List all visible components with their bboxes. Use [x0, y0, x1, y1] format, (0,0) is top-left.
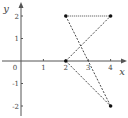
coordinate-diagram: 1234-2-1120xy	[0, 0, 128, 118]
y-tick-label: -2	[12, 103, 19, 111]
y-axis-arrow	[19, 2, 24, 8]
x-tick-label: 1	[41, 64, 45, 72]
data-point	[64, 59, 68, 63]
segment-dashed	[66, 16, 111, 61]
y-axis-label: y	[2, 3, 9, 14]
y-tick-label: -1	[12, 80, 19, 88]
y-tick-label: 1	[15, 35, 19, 43]
x-axis-arrow	[121, 59, 127, 64]
origin-label: 0	[13, 64, 17, 72]
x-tick-label: 2	[64, 64, 68, 72]
x-tick-label: 4	[108, 64, 113, 72]
x-axis-label: x	[119, 66, 125, 77]
x-tick-label: 3	[86, 64, 90, 72]
axes	[2, 2, 127, 116]
data-point	[64, 14, 68, 18]
data-point	[109, 14, 113, 18]
y-tick-label: 2	[15, 13, 19, 21]
data-point	[109, 104, 113, 108]
